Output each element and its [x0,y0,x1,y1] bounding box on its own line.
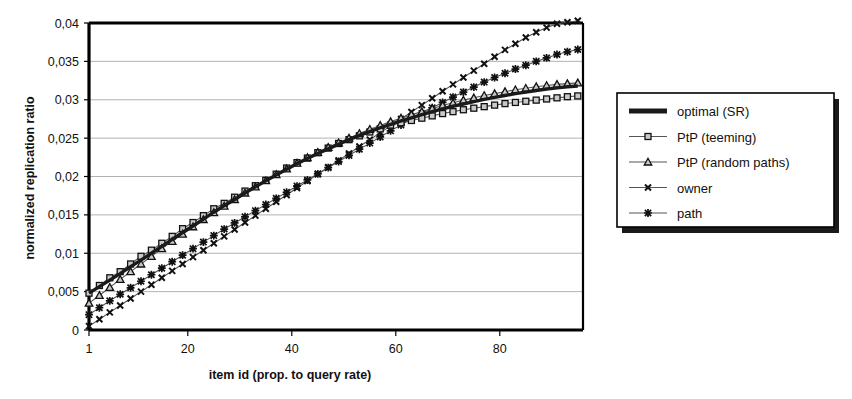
data-point-star [85,311,93,319]
data-point-star [553,51,561,59]
data-point-star [459,88,467,96]
data-point-star [293,182,301,190]
data-point-star [262,201,270,209]
data-point-star [199,238,207,246]
data-point-star [501,69,509,77]
data-point-star [210,232,218,240]
chart-canvas: 00,0050,010,0150,020,0250,030,0350,04 12… [0,0,852,399]
x-tick-label: 1 [86,342,93,356]
data-point-star [137,277,145,285]
data-point-square [533,97,539,103]
data-point-square [440,111,446,117]
data-point-star [644,209,652,217]
x-tick-label: 80 [493,342,507,356]
data-point-star [189,245,197,253]
data-point-star [543,54,551,62]
y-tick-label: 0,03 [55,93,79,107]
data-point-star [106,297,114,305]
y-tick-label: 0,035 [48,55,79,69]
data-point-star [116,290,124,298]
data-point-star [231,219,239,227]
data-point-square [544,96,550,102]
data-point-star [168,258,176,266]
legend-label: PtP (random paths) [677,155,789,170]
data-point-square [512,99,518,105]
data-point-star [147,271,155,279]
legend-label: owner [677,181,713,196]
data-point-star [272,194,280,202]
data-point-star [303,176,311,184]
x-tick-label: 40 [285,342,299,356]
legend-label: path [677,206,702,221]
data-point-star [355,145,363,153]
legend-label: PtP (teeming) [677,130,756,145]
data-point-star [574,46,582,54]
data-point-star [324,164,332,172]
data-point-square [523,98,529,104]
data-point-star [220,225,228,233]
y-tick-label: 0,025 [48,132,79,146]
data-point-star [179,251,187,259]
data-point-star [314,170,322,178]
legend-label: optimal (SR) [677,104,749,119]
data-point-square [502,101,508,107]
x-tick-label: 60 [389,342,403,356]
data-point-square [575,93,581,99]
x-axis-title: item id (prop. to query rate) [209,368,372,382]
data-point-star [127,284,135,292]
y-tick-label: 0,02 [55,170,79,184]
data-point-star [511,65,519,73]
data-point-square [564,94,570,100]
data-point-square [492,102,498,108]
data-point-star [470,83,478,91]
data-point-star [251,207,259,215]
y-tick-label: 0,005 [48,285,79,299]
y-tick-label: 0,01 [55,247,79,261]
data-point-star [366,139,374,147]
y-tick-label: 0,015 [48,208,79,222]
y-axis-title: normalized replication ratio [23,96,37,260]
data-point-star [345,151,353,159]
data-point-square [460,107,466,113]
data-point-star [522,61,530,69]
x-tick-label: 20 [181,342,195,356]
data-point-star [532,57,540,65]
data-point-square [481,104,487,110]
data-point-star [335,158,343,166]
y-tick-label: 0,04 [55,17,79,31]
y-tick-label: 0 [72,324,79,338]
data-point-star [95,304,103,312]
data-point-star [241,213,249,221]
data-point-square [554,95,560,101]
data-point-star [283,188,291,196]
data-point-star [491,74,499,82]
data-point-square [471,105,477,111]
data-point-square [450,109,456,115]
legend: optimal (SR)PtP (teeming)PtP (random pat… [617,93,839,233]
data-point-star [376,133,384,141]
data-point-square [645,134,651,140]
data-point-star [158,264,166,272]
data-point-star [563,48,571,56]
chart-figure: 00,0050,010,0150,020,0250,030,0350,04 12… [0,0,852,399]
data-point-star [480,78,488,86]
